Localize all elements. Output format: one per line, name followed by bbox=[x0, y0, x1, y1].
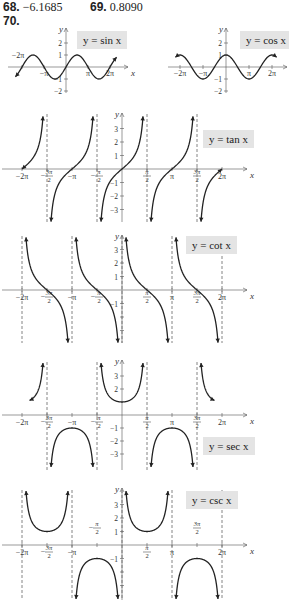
svg-text:y: y bbox=[114, 356, 119, 366]
svg-text:−: − bbox=[91, 417, 96, 426]
svg-text:−2π: −2π bbox=[12, 51, 25, 60]
svg-text:3π: 3π bbox=[45, 414, 53, 421]
svg-text:2π: 2π bbox=[268, 69, 276, 78]
svg-text:π: π bbox=[170, 418, 174, 427]
svg-text:−1: −1 bbox=[110, 424, 118, 433]
svg-text:−2: −2 bbox=[214, 87, 222, 96]
svg-text:2: 2 bbox=[47, 176, 50, 183]
svg-text:−: − bbox=[91, 171, 96, 180]
svg-text:−2π: −2π bbox=[16, 172, 29, 181]
svg-text:3π: 3π bbox=[193, 520, 201, 527]
svg-text:1: 1 bbox=[114, 528, 118, 537]
svg-text:2: 2 bbox=[97, 297, 100, 304]
svg-text:3π: 3π bbox=[45, 168, 53, 175]
svg-text:2π: 2π bbox=[218, 172, 226, 181]
svg-text:−1: −1 bbox=[214, 75, 222, 84]
svg-text:2: 2 bbox=[195, 528, 198, 535]
label-csc: y = csc x bbox=[186, 491, 238, 509]
label-sin: y = sin x bbox=[77, 31, 127, 49]
svg-text:π: π bbox=[170, 172, 174, 181]
svg-text:y: y bbox=[114, 484, 119, 494]
svg-text:2: 2 bbox=[97, 176, 100, 183]
svg-text:−2π: −2π bbox=[174, 69, 187, 78]
svg-text:−2π: −2π bbox=[16, 418, 29, 427]
svg-text:3: 3 bbox=[114, 501, 118, 510]
svg-text:2: 2 bbox=[47, 297, 50, 304]
trig-graphs: xy21−1−2−2π−ππ2πxy21−1−2−2π−ππ2πxy321−1−… bbox=[0, 0, 289, 605]
svg-text:2: 2 bbox=[114, 259, 118, 268]
svg-text:3π: 3π bbox=[45, 544, 53, 551]
svg-text:2: 2 bbox=[218, 39, 222, 48]
svg-text:y: y bbox=[218, 24, 223, 34]
svg-text:2π: 2π bbox=[218, 418, 226, 427]
svg-text:x: x bbox=[249, 170, 254, 180]
svg-text:2: 2 bbox=[47, 422, 50, 429]
svg-text:−: − bbox=[89, 523, 94, 532]
svg-text:2: 2 bbox=[114, 138, 118, 147]
svg-text:x: x bbox=[249, 291, 254, 301]
svg-text:−3: −3 bbox=[110, 206, 118, 215]
svg-text:−π: −π bbox=[68, 172, 77, 181]
svg-text:1: 1 bbox=[114, 273, 118, 282]
svg-text:3: 3 bbox=[114, 246, 118, 255]
svg-text:−π: −π bbox=[40, 69, 49, 78]
svg-text:−π: −π bbox=[68, 418, 77, 427]
svg-text:π: π bbox=[95, 520, 99, 527]
svg-text:1: 1 bbox=[58, 51, 62, 60]
label-cos: y = cos x bbox=[240, 31, 289, 49]
svg-text:2: 2 bbox=[195, 297, 198, 304]
svg-text:x: x bbox=[249, 416, 254, 426]
svg-text:2: 2 bbox=[145, 552, 148, 559]
svg-text:2: 2 bbox=[114, 514, 118, 523]
svg-text:2: 2 bbox=[114, 385, 118, 394]
svg-text:x: x bbox=[130, 68, 135, 78]
label-tan: y = tan x bbox=[203, 130, 254, 148]
svg-text:−1: −1 bbox=[110, 555, 118, 564]
svg-text:−2: −2 bbox=[110, 192, 118, 201]
label-sec: y = sec x bbox=[203, 437, 255, 455]
svg-text:3: 3 bbox=[114, 125, 118, 134]
svg-text:3: 3 bbox=[114, 372, 118, 381]
svg-text:2: 2 bbox=[58, 39, 62, 48]
svg-text:x: x bbox=[249, 546, 254, 556]
svg-text:1: 1 bbox=[114, 152, 118, 161]
svg-text:2π: 2π bbox=[106, 69, 114, 78]
svg-text:y: y bbox=[114, 109, 119, 119]
svg-text:2: 2 bbox=[145, 297, 148, 304]
svg-text:−3: −3 bbox=[110, 450, 118, 459]
svg-text:−: − bbox=[91, 292, 96, 301]
svg-text:π: π bbox=[247, 69, 251, 78]
svg-text:−2: −2 bbox=[54, 87, 62, 96]
svg-text:y: y bbox=[114, 231, 119, 241]
svg-text:2: 2 bbox=[47, 552, 50, 559]
svg-text:2: 2 bbox=[97, 422, 100, 429]
svg-text:−π: −π bbox=[199, 69, 208, 78]
svg-text:−2: −2 bbox=[110, 437, 118, 446]
svg-text:y: y bbox=[58, 24, 63, 34]
svg-text:2: 2 bbox=[95, 528, 98, 535]
label-cot: y = cot x bbox=[186, 236, 237, 254]
